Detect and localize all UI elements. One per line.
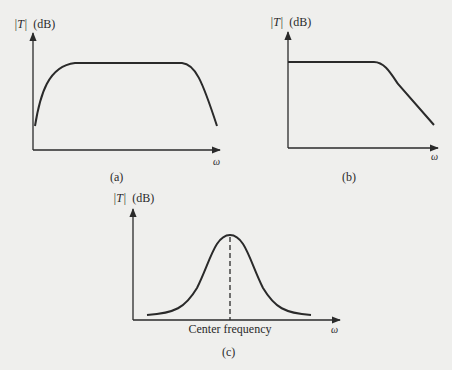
caption: (a) <box>110 170 123 184</box>
x-axis-label: ω <box>331 324 338 335</box>
center-frequency-label: Center frequency <box>189 322 272 336</box>
panel-b: |T| (dB) ω (b) <box>270 15 438 184</box>
x-axis-label: ω <box>213 156 220 167</box>
x-axis-label: ω <box>431 151 438 162</box>
caption: (c) <box>222 345 235 359</box>
y-axis-label: |T| (dB) <box>14 17 55 31</box>
response-curve <box>147 235 311 315</box>
response-curve <box>288 62 434 125</box>
panel-a: |T| (dB) ω (a) <box>14 17 220 184</box>
panel-c: |T| (dB) Center frequency ω (c) <box>113 191 340 359</box>
filter-response-figure: |T| (dB) ω (a) |T| (dB) ω (b) |T| (dB) C… <box>0 0 452 370</box>
y-axis-label: |T| (dB) <box>113 191 154 205</box>
response-curve <box>35 63 217 126</box>
y-axis-label: |T| (dB) <box>270 15 311 29</box>
caption: (b) <box>342 170 356 184</box>
